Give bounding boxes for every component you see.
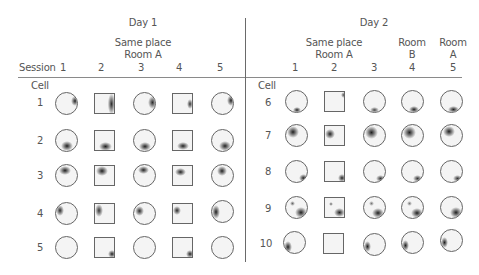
day2-session-3: 3 [371, 62, 377, 73]
ratemap-cell1-s2 [94, 93, 115, 114]
day2-session-1: 1 [292, 62, 298, 73]
ratemap-cell2-s5 [211, 129, 234, 152]
ratemap-cell10-s4 [401, 231, 424, 254]
ratemap-cell4-s1 [55, 202, 78, 225]
day1-cell-header: Cell [31, 80, 49, 91]
ratemap-cell1-s5 [211, 92, 234, 115]
day-divider [245, 18, 246, 262]
ratemap-cell2-s4 [172, 130, 193, 151]
ratemap-cell10-s1 [283, 231, 306, 254]
day2-session-5: 5 [450, 62, 456, 73]
cell-label-7: 7 [265, 130, 271, 141]
day2-roomb-line2: B [409, 49, 416, 60]
ratemap-cell9-s5 [440, 196, 463, 219]
ratemap-cell4-s2 [94, 203, 115, 224]
ratemap-cell10-s5 [440, 229, 463, 252]
ratemap-cell3-s3 [133, 164, 156, 187]
ratemap-cell9-s1 [285, 196, 308, 219]
ratemap-cell6-s2 [324, 91, 345, 112]
cell-label-4: 4 [37, 208, 43, 219]
cell-label-3: 3 [37, 170, 43, 181]
ratemap-cell5-s3 [133, 236, 156, 259]
day1-session-5: 5 [217, 62, 223, 73]
ratemap-cell7-s5 [440, 124, 463, 147]
ratemap-cell5-s4 [172, 237, 193, 258]
ratemap-cell8-s1 [285, 160, 308, 183]
day2-cell-header: Cell [258, 80, 276, 91]
cell-label-8: 8 [265, 166, 271, 177]
ratemap-cell2-s3 [133, 129, 156, 152]
ratemap-cell1-s4 [172, 93, 193, 114]
cell-label-5: 5 [37, 242, 43, 253]
ratemap-cell10-s2 [323, 233, 344, 254]
ratemap-cell4-s4 [172, 203, 193, 224]
ratemap-cell6-s1 [285, 90, 308, 113]
ratemap-cell2-s1 [55, 129, 78, 152]
cell-label-6: 6 [265, 97, 271, 108]
ratemap-cell2-s2 [94, 130, 115, 151]
ratemap-cell5-s2 [94, 237, 115, 258]
ratemap-cell8-s5 [440, 160, 463, 183]
day2-roomb-line1: Room [398, 37, 426, 48]
ratemap-cell1-s1 [55, 92, 78, 115]
ratemap-cell5-s5 [211, 236, 234, 259]
cell-label-9: 9 [265, 203, 271, 214]
day1-title: Day 1 [129, 17, 157, 28]
ratemap-cell1-s3 [133, 92, 156, 115]
ratemap-cell8-s2 [324, 161, 345, 182]
ratemap-cell3-s5 [211, 164, 234, 187]
ratemap-cell7-s1 [285, 124, 308, 147]
ratemap-cell6-s4 [401, 90, 424, 113]
day1-session-1: 1 [60, 62, 66, 73]
cell-label-2: 2 [37, 135, 43, 146]
ratemap-cell3-s4 [172, 165, 193, 186]
day1-session-3: 3 [138, 62, 144, 73]
ratemap-cell7-s2 [324, 125, 345, 146]
ratemap-cell3-s2 [94, 165, 115, 186]
ratemap-cell10-s3 [363, 233, 386, 256]
ratemap-cell9-s4 [401, 196, 424, 219]
day2-session-2: 2 [331, 62, 337, 73]
session-label: Session [19, 62, 56, 73]
cell-label-1: 1 [37, 97, 43, 108]
ratemap-cell8-s3 [363, 160, 386, 183]
ratemap-cell3-s1 [55, 164, 78, 187]
ratemap-cell7-s3 [363, 124, 386, 147]
day2-rooma-line2: A [450, 49, 457, 60]
header-rule [18, 77, 462, 78]
day2-condition-line2: Room A [315, 49, 352, 60]
day2-rooma-line1: Room [439, 37, 467, 48]
ratemap-cell4-s3 [133, 202, 156, 225]
day1-condition-line2: Room A [124, 49, 161, 60]
day1-session-2: 2 [98, 62, 104, 73]
ratemap-cell6-s3 [363, 90, 386, 113]
day2-session-4: 4 [409, 62, 415, 73]
cell-label-10: 10 [260, 238, 272, 249]
ratemap-cell8-s4 [401, 160, 424, 183]
ratemap-cell9-s2 [324, 197, 345, 218]
ratemap-cell9-s3 [363, 196, 386, 219]
ratemap-cell4-s5 [211, 200, 234, 223]
day1-condition-line1: Same place [115, 37, 171, 48]
ratemap-cell6-s5 [440, 90, 463, 113]
ratemap-cell7-s4 [401, 124, 424, 147]
day2-condition-line1: Same place [306, 37, 362, 48]
day1-session-4: 4 [176, 62, 182, 73]
day2-title: Day 2 [360, 17, 388, 28]
ratemap-cell5-s1 [55, 236, 78, 259]
